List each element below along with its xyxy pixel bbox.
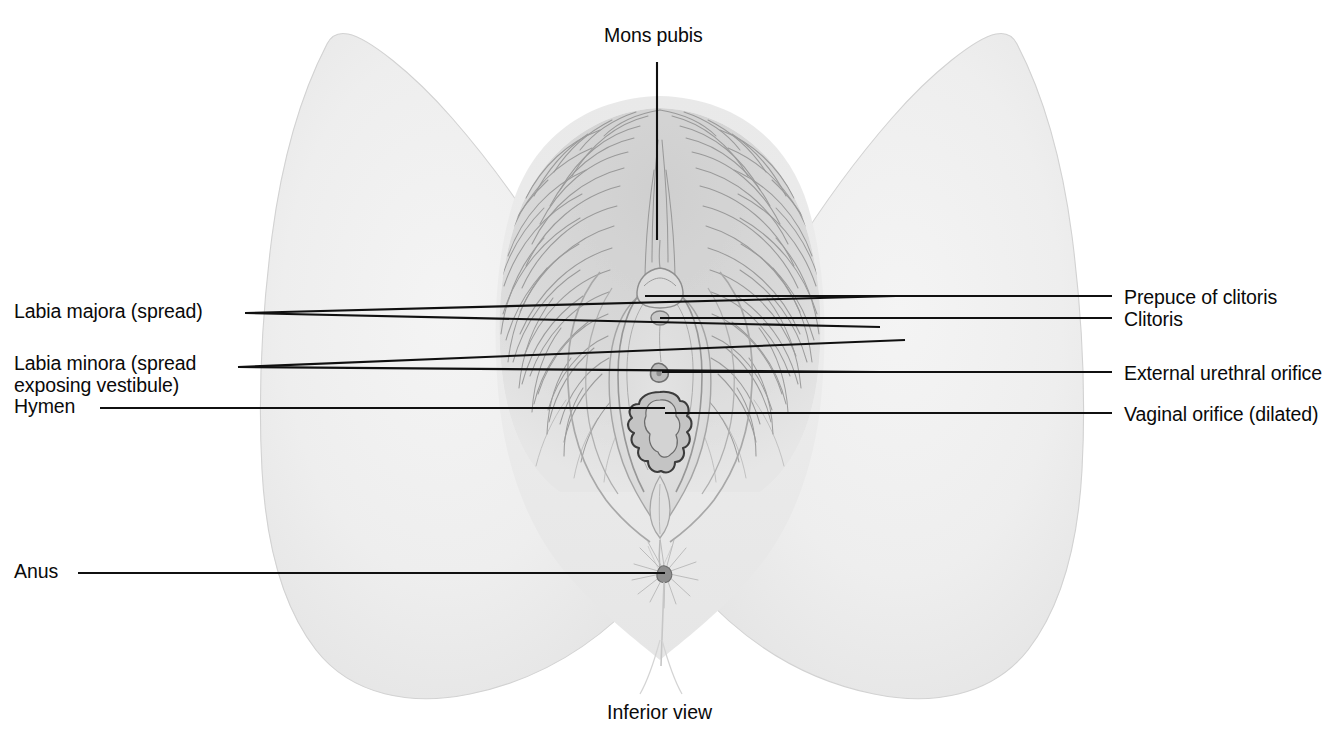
label-hymen: Hymen bbox=[14, 395, 75, 417]
label-external-urethral-orifice: External urethral orifice bbox=[1124, 362, 1322, 384]
label-anus: Anus bbox=[14, 560, 58, 582]
label-mons-pubis: Mons pubis bbox=[604, 24, 703, 46]
label-labia-majora: Labia majora (spread) bbox=[14, 300, 203, 322]
label-labia-minora: Labia minora (spread exposing vestibule) bbox=[14, 352, 196, 396]
label-clitoris: Clitoris bbox=[1124, 308, 1183, 330]
label-prepuce-of-clitoris: Prepuce of clitoris bbox=[1124, 286, 1277, 308]
figure-caption: Inferior view bbox=[607, 701, 712, 724]
label-vaginal-orifice: Vaginal orifice (dilated) bbox=[1124, 403, 1318, 425]
anatomy-figure-page: Mons pubis Labia majora (spread) Labia m… bbox=[0, 0, 1344, 746]
